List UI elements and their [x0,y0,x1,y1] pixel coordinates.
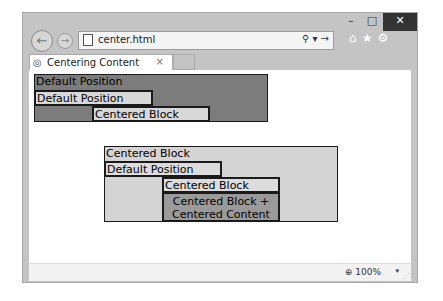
gear-icon[interactable]: ⚙ [377,31,393,45]
zoom-value: 100% [355,267,381,277]
zoom-level[interactable]: ⊕ 100% [345,267,381,277]
default-position-block: Default Position [104,161,222,177]
tab-label: Centering Content [47,57,139,68]
zoom-icon: ⊕ [345,267,353,277]
outer-block-label: Default Position [36,75,123,88]
toolbar-icons: ⌂★⚙ [349,31,393,45]
ie-page-icon: ◎ [33,57,42,68]
default-position-block: Default Position [34,90,153,106]
go-arrow-icon[interactable]: → [321,33,329,44]
back-button[interactable]: ← [31,30,53,52]
back-arrow-icon: ← [37,33,48,48]
maximize-button[interactable]: □ [361,13,383,31]
search-icon[interactable]: ⚲ [302,33,309,44]
status-bar: ⊕ 100% ▾ ⋰ [29,263,411,281]
centered-block: Centered Block [92,106,210,122]
centered-block: Centered Block [162,177,280,193]
minimize-button[interactable]: – [341,13,361,31]
page-icon [83,34,93,46]
forward-button[interactable]: → [57,33,73,49]
chevron-down-icon[interactable]: ▾ [312,33,317,44]
new-tab-button[interactable] [173,54,195,70]
close-button[interactable]: ✕ [383,13,417,31]
forward-arrow-icon: → [61,35,69,46]
zoom-dropdown-icon[interactable]: ▾ [395,267,399,275]
centered-content-block: Centered Block + Centered Content [162,192,280,222]
star-icon[interactable]: ★ [362,31,378,45]
outer-block-label: Centered Block [106,147,190,160]
resize-grip-icon[interactable]: ⋰ [403,272,410,280]
address-bar[interactable]: center.html ⚲ ▾ → [78,31,334,50]
tab-centering-content[interactable]: ◎ Centering Content × [29,54,173,71]
tab-close-icon[interactable]: × [156,56,164,67]
navigation-bar: ← → center.html ⚲ ▾ → ⌂★⚙ [23,30,417,54]
url-text[interactable]: center.html [98,34,155,45]
home-icon[interactable]: ⌂ [349,31,362,45]
address-controls: ⚲ ▾ → [302,33,329,44]
